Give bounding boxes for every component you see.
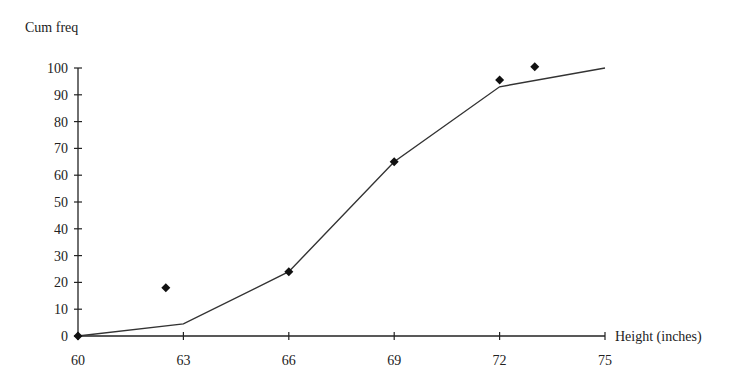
y-tick-label: 50 bbox=[54, 195, 68, 210]
x-tick-label: 72 bbox=[493, 353, 507, 368]
x-tick-label: 75 bbox=[598, 353, 612, 368]
x-tick-label: 60 bbox=[71, 353, 85, 368]
axes bbox=[78, 68, 605, 336]
diamond-marker bbox=[495, 76, 504, 85]
y-tick-label: 90 bbox=[54, 88, 68, 103]
y-tick-label: 20 bbox=[54, 275, 68, 290]
x-tick-label: 69 bbox=[387, 353, 401, 368]
diamond-marker bbox=[74, 332, 83, 341]
cumulative-frequency-chart: Cum freq Height (inches) 010203040506070… bbox=[0, 0, 753, 389]
x-axis-label: Height (inches) bbox=[615, 329, 702, 345]
y-tick-label: 80 bbox=[54, 115, 68, 130]
y-tick-label: 60 bbox=[54, 168, 68, 183]
tick-labels: 0102030405060708090100606366697275 bbox=[47, 61, 612, 368]
x-tick-label: 66 bbox=[282, 353, 296, 368]
frequency-polygon-line bbox=[78, 68, 605, 336]
data-point-markers bbox=[74, 62, 540, 340]
y-tick-label: 70 bbox=[54, 141, 68, 156]
y-tick-label: 10 bbox=[54, 302, 68, 317]
diamond-marker bbox=[161, 283, 170, 292]
axis-ticks bbox=[74, 68, 605, 340]
y-tick-label: 100 bbox=[47, 61, 68, 76]
diamond-marker bbox=[530, 62, 539, 71]
y-tick-label: 30 bbox=[54, 249, 68, 264]
y-tick-label: 0 bbox=[61, 329, 68, 344]
y-axis-label: Cum freq bbox=[25, 20, 78, 35]
x-tick-label: 63 bbox=[176, 353, 190, 368]
y-tick-label: 40 bbox=[54, 222, 68, 237]
polygon-line bbox=[78, 68, 605, 336]
